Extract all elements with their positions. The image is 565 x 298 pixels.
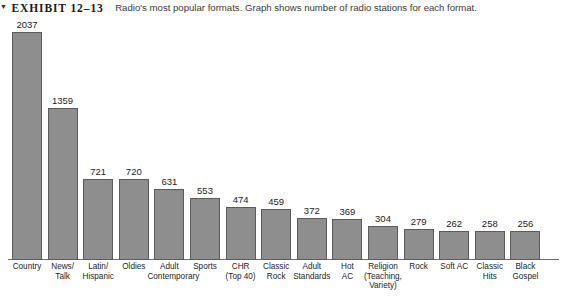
- bar-column: 1359: [48, 108, 78, 260]
- bar: [439, 231, 469, 260]
- bar-column: 721: [83, 179, 113, 260]
- bar: [510, 231, 540, 260]
- bar-column: 304: [368, 226, 398, 260]
- bar-column: 474: [226, 207, 256, 260]
- bar: [190, 198, 220, 260]
- bar: [83, 179, 113, 260]
- triangle-marker-icon: ▼: [0, 0, 7, 15]
- bar-column: 459: [261, 209, 291, 260]
- bar-value-label: 720: [126, 166, 142, 177]
- bar: [154, 189, 184, 260]
- bar-column: 2037: [12, 32, 42, 260]
- bar-column: 553: [190, 198, 220, 260]
- bar-column: 372: [297, 218, 327, 260]
- bar-column: 720: [119, 179, 149, 260]
- bar-value-label: 631: [161, 176, 177, 187]
- bar-value-label: 372: [304, 205, 320, 216]
- bar-value-label: 474: [233, 194, 249, 205]
- bar-column: 262: [439, 231, 469, 260]
- bar-value-label: 279: [411, 216, 427, 227]
- bar-value-label: 721: [90, 166, 106, 177]
- category-label: Black Gospel: [503, 262, 547, 281]
- bar-column: 631: [154, 189, 184, 260]
- bar-value-label: 256: [517, 218, 533, 229]
- bar: [404, 229, 434, 260]
- bar-value-label: 258: [482, 218, 498, 229]
- bar: [297, 218, 327, 260]
- bar-chart-plot-area: 2037135972172063155347445937236930427926…: [0, 18, 565, 260]
- bar-column: 258: [475, 231, 505, 260]
- bar: [332, 219, 362, 260]
- bar-value-label: 369: [339, 206, 355, 217]
- bar: [12, 32, 42, 260]
- exhibit-number: EXHIBIT 12–13: [11, 0, 103, 16]
- bar: [226, 207, 256, 260]
- bar: [48, 108, 78, 260]
- bar-value-label: 262: [446, 218, 462, 229]
- bar-value-label: 459: [268, 196, 284, 207]
- exhibit-caption-text: Radio's most popular formats. Graph show…: [108, 0, 477, 16]
- bar: [261, 209, 291, 260]
- bar-value-label: 304: [375, 213, 391, 224]
- bar: [119, 179, 149, 260]
- bar-value-label: 2037: [16, 19, 37, 30]
- bar-value-label: 1359: [52, 95, 73, 106]
- bar-column: 256: [510, 231, 540, 260]
- bar: [475, 231, 505, 260]
- category-axis-labels: CountryNews/ TalkLatin/ HispanicOldiesAd…: [0, 262, 565, 298]
- bar-column: 369: [332, 219, 362, 260]
- bar-value-label: 553: [197, 185, 213, 196]
- bar: [368, 226, 398, 260]
- bar-column: 279: [404, 229, 434, 260]
- exhibit-caption: ▼ EXHIBIT 12–13 Radio's most popular for…: [0, 0, 565, 16]
